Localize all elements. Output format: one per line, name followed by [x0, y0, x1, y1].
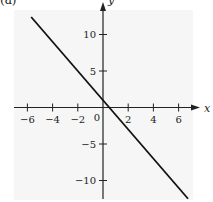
y-tick-label: 5	[90, 66, 96, 77]
x-tick-label: 4	[150, 114, 156, 125]
x-axis-label: x	[204, 102, 211, 115]
x-tick-label: 6	[175, 114, 181, 125]
x-tick-label: 2	[125, 114, 131, 125]
origin-label: 0	[94, 112, 100, 123]
line-chart: −6−4−20246−10−5510 x y	[0, 0, 213, 202]
y-axis-arrow-icon	[100, 2, 106, 11]
y-tick-label: −5	[81, 139, 96, 150]
y-axis-label: y	[107, 0, 115, 7]
y-tick-label: −10	[75, 175, 96, 186]
x-axis-arrow-icon	[191, 105, 200, 111]
x-tick-label: −6	[20, 114, 35, 125]
x-tick-label: −4	[45, 114, 60, 125]
x-tick-label: −2	[70, 114, 85, 125]
y-tick-label: 10	[83, 29, 96, 40]
